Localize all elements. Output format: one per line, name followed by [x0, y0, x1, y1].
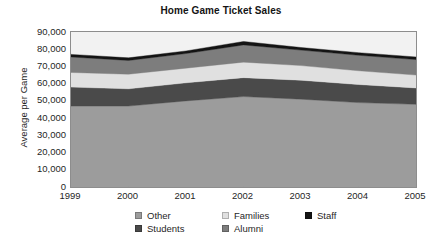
legend-item-staff[interactable]: Staff [305, 210, 336, 221]
y-axis-tick-label: 60,000 [14, 78, 66, 88]
legend-label: Other [147, 211, 171, 221]
legend-label: Students [147, 224, 185, 234]
legend-item-students[interactable]: Students [135, 223, 185, 234]
legend-swatch-staff [305, 212, 312, 219]
x-axis-tick-label: 2001 [155, 190, 215, 201]
legend-item-families[interactable]: Families [222, 210, 269, 221]
x-axis-tick-label: 2003 [270, 190, 330, 201]
y-axis-tick-label: 30,000 [14, 130, 66, 140]
x-axis-tick-labels: 1999200020012002200320042005 [70, 190, 415, 204]
stacked-area-plot [71, 32, 416, 187]
legend-swatch-students [135, 225, 142, 232]
y-axis-tick-label: 20,000 [14, 147, 66, 157]
y-axis-tick-label: 90,000 [14, 27, 66, 37]
chart-legend: OtherFamiliesStaffStudentsAlumni [135, 210, 395, 236]
legend-label: Staff [317, 211, 336, 221]
legend-swatch-other [135, 212, 142, 219]
legend-swatch-families [222, 212, 229, 219]
chart-figure: Home Game Ticket Sales Average per Game … [0, 0, 442, 249]
x-axis-tick-label: 2004 [328, 190, 388, 201]
plot-area [70, 31, 417, 188]
y-axis-tick-labels: 90,00080,00070,00060,00050,00040,00030,0… [14, 31, 66, 186]
chart-title: Home Game Ticket Sales [0, 5, 442, 16]
y-axis-tick-label: 80,000 [14, 44, 66, 54]
legend-item-alumni[interactable]: Alumni [222, 223, 263, 234]
x-axis-tick-label: 1999 [40, 190, 100, 201]
y-axis-tick-label: 50,000 [14, 95, 66, 105]
x-axis-tick-label: 2000 [98, 190, 158, 201]
y-axis-tick-label: 40,000 [14, 113, 66, 123]
legend-item-other[interactable]: Other [135, 210, 171, 221]
area-series-other [71, 97, 416, 187]
legend-label: Alumni [234, 224, 263, 234]
y-axis-tick-label: 70,000 [14, 61, 66, 71]
x-axis-tick-label: 2005 [385, 190, 442, 201]
y-axis-tick-label: 10,000 [14, 164, 66, 174]
legend-label: Families [234, 211, 269, 221]
legend-swatch-alumni [222, 225, 229, 232]
x-axis-tick-label: 2002 [213, 190, 273, 201]
